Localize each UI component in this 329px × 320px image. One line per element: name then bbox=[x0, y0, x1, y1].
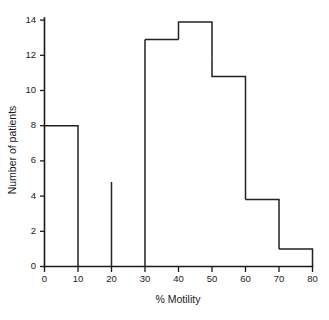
x-tick-label: 70 bbox=[274, 273, 285, 284]
chart-svg: 0 2 4 6 8 10 12 14 0 10 20 30 40 bbox=[0, 0, 329, 320]
histogram-figure: 0 2 4 6 8 10 12 14 0 10 20 30 40 bbox=[0, 0, 329, 320]
x-tick-label: 20 bbox=[106, 273, 117, 284]
y-tick-label: 4 bbox=[31, 190, 36, 201]
y-tick-label: 2 bbox=[31, 225, 36, 236]
y-tick-label: 10 bbox=[25, 84, 36, 95]
x-axis-tick-labels: 0 10 20 30 40 50 60 70 80 bbox=[42, 273, 318, 284]
y-tick-label: 8 bbox=[31, 119, 36, 130]
x-tick-label: 80 bbox=[307, 273, 318, 284]
y-tick-label: 14 bbox=[25, 14, 36, 25]
y-axis-title: Number of patients bbox=[6, 106, 18, 195]
x-tick-label: 10 bbox=[73, 273, 84, 284]
x-tick-label: 50 bbox=[207, 273, 218, 284]
y-tick-label: 0 bbox=[31, 260, 36, 271]
x-tick-label: 30 bbox=[140, 273, 151, 284]
y-tick-label: 12 bbox=[25, 49, 36, 60]
y-tick-label: 6 bbox=[31, 154, 36, 165]
x-tick-label: 60 bbox=[240, 273, 251, 284]
x-tick-label: 40 bbox=[173, 273, 184, 284]
x-tick-label: 0 bbox=[42, 273, 47, 284]
x-axis-title: % Motility bbox=[156, 293, 202, 305]
